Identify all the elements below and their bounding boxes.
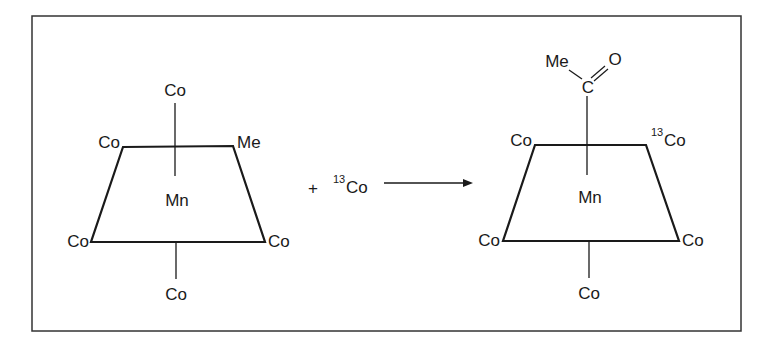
product-ligand-bottom-left: Co [478, 231, 500, 250]
reactant-ligand-top-left: Co [98, 133, 120, 152]
product-ligand-top-left: Co [510, 131, 532, 150]
reaction-diagram: Co Co Me Mn Co Co Co + 13 Co Me C O Co 1… [0, 0, 770, 346]
reactant-complex: Co Co Me Mn Co Co Co [67, 81, 289, 304]
reactant-ligand-bottom-left: Co [67, 232, 89, 251]
reactant-ligand-top-right: Me [237, 133, 261, 152]
product-ligand-bottom-right: Co [682, 231, 704, 250]
product-complex: Me C O Co 13 Co Mn Co Co Co [478, 50, 703, 303]
acyl-oxygen-label: O [608, 50, 621, 69]
reactant-ligand-bottom-right: Co [268, 232, 290, 251]
plus-sign: + [308, 179, 318, 198]
reagent-isotope: 13 [333, 173, 345, 185]
reactant-ligand-bottom: Co [165, 285, 187, 304]
reactant-ligand-top: Co [164, 81, 186, 100]
acyl-methyl-label: Me [545, 52, 569, 71]
c-o-double-bond-2 [594, 69, 608, 81]
acyl-carbon-label: C [582, 78, 594, 97]
product-ligand-bottom: Co [578, 284, 600, 303]
product-ligand-top-right: Co [664, 131, 686, 150]
product-ligand-top-right-isotope: 13 [651, 126, 663, 138]
c-o-double-bond-1 [591, 66, 605, 78]
reagent-symbol: Co [346, 178, 368, 197]
frame-border [32, 16, 741, 331]
product-center-metal: Mn [578, 188, 602, 207]
reaction-arrow-icon [384, 179, 473, 187]
reactant-center-metal: Mn [165, 191, 189, 210]
me-c-bond [569, 70, 582, 79]
